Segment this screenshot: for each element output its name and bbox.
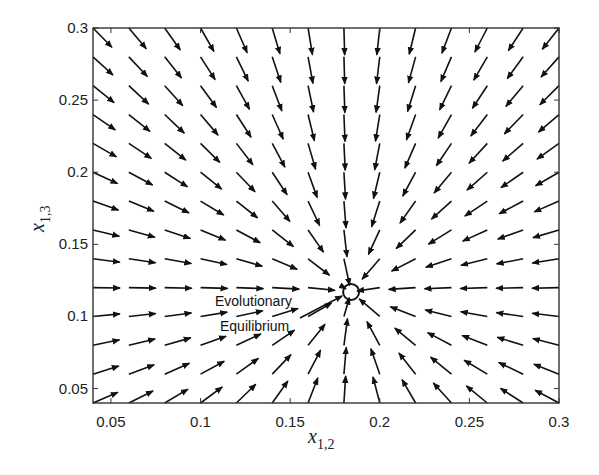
field-arrow [344, 172, 346, 199]
field-arrow [165, 338, 191, 345]
field-arrow [236, 172, 255, 191]
field-arrow [474, 57, 488, 80]
field-arrow [403, 172, 416, 196]
field-arrow [462, 335, 487, 345]
field-arrow [472, 86, 487, 109]
field-arrow [129, 115, 150, 132]
field-arrow [461, 312, 488, 317]
field-arrow [367, 322, 380, 346]
field-arrow [93, 392, 118, 403]
field-arrow [93, 201, 118, 210]
field-arrow [408, 86, 416, 112]
field-arrow [344, 319, 348, 346]
field-arrow [375, 115, 379, 142]
x-tick-labels: 0.050.10.150.20.250.3 [96, 413, 569, 430]
field-arrow [431, 357, 452, 374]
field-arrow [308, 259, 329, 275]
field-arrow [405, 143, 416, 168]
field-arrow [308, 350, 321, 374]
field-arrow [426, 259, 452, 267]
field-arrow [308, 378, 318, 403]
field-arrow [129, 259, 156, 263]
field-arrow [272, 288, 299, 289]
field-arrow [129, 288, 156, 289]
field-arrow [201, 143, 220, 162]
vector-field-chart: 0.050.10.150.20.250.3 0.050.10.150.20.25… [0, 0, 599, 475]
field-arrow [93, 340, 119, 345]
field-arrow [236, 28, 247, 53]
field-arrow [372, 201, 380, 227]
field-arrow [165, 259, 192, 264]
field-arrow [272, 172, 287, 195]
field-arrow [201, 259, 227, 265]
field-arrow [93, 259, 120, 262]
y-tick-labels: 0.050.10.150.20.250.3 [59, 19, 88, 397]
field-arrow [165, 389, 188, 403]
field-arrow [497, 259, 524, 264]
field-arrow [542, 28, 559, 49]
field-arrow [236, 384, 255, 403]
field-arrow [395, 328, 416, 345]
field-arrow [461, 259, 487, 265]
field-arrow [165, 86, 183, 106]
field-arrow [236, 288, 263, 289]
field-arrow [428, 333, 452, 346]
field-arrow [129, 143, 151, 158]
field-arrow [165, 57, 182, 78]
field-arrow [165, 172, 188, 187]
field-arrow [344, 347, 346, 374]
field-arrow [508, 28, 523, 51]
annotation-line1: Evolutionary [215, 293, 292, 309]
x-tick-label: 0.3 [549, 413, 570, 430]
vector-field-arrows [93, 28, 559, 403]
y-tick-label: 0.3 [67, 19, 88, 36]
field-arrow [344, 230, 347, 257]
field-arrow [165, 115, 185, 134]
field-arrow [272, 28, 280, 54]
field-arrow [272, 355, 291, 374]
annotation-pointer [300, 296, 342, 318]
field-arrow [236, 311, 262, 317]
x-tick-label: 0.25 [455, 413, 484, 430]
field-arrow [399, 353, 416, 374]
field-arrow [344, 376, 346, 403]
field-arrow [129, 172, 153, 185]
plot-frame [93, 28, 559, 403]
field-arrow [357, 288, 380, 291]
annotation-line2: Equilibrium [220, 318, 289, 334]
field-arrow [506, 86, 523, 107]
field-arrow [129, 365, 154, 374]
field-arrow [236, 230, 260, 243]
field-arrow [460, 288, 487, 289]
field-arrow [93, 366, 119, 374]
field-arrow [129, 339, 155, 345]
field-arrow [471, 115, 487, 136]
field-arrow [201, 172, 222, 189]
field-arrow [165, 28, 181, 50]
field-arrow [344, 259, 350, 285]
field-arrow [272, 143, 285, 167]
field-arrow [465, 201, 487, 216]
field-arrow [496, 288, 523, 289]
field-arrow [201, 230, 226, 240]
field-arrow [344, 201, 346, 228]
field-arrow [344, 115, 345, 142]
y-tick-label: 0.25 [59, 91, 88, 108]
field-arrow [440, 86, 452, 110]
field-arrow [129, 314, 156, 317]
y-tick-label: 0.2 [67, 163, 88, 180]
equilibrium-marker [343, 284, 359, 300]
field-arrow [497, 337, 523, 345]
field-arrow [371, 349, 380, 374]
x-tick-label: 0.1 [190, 413, 211, 430]
field-arrow [308, 230, 323, 252]
field-arrow [308, 143, 316, 169]
field-arrow [201, 201, 224, 215]
field-arrow [236, 201, 257, 218]
x-tick-label: 0.05 [96, 413, 125, 430]
field-arrow [533, 230, 559, 238]
field-arrow [431, 201, 451, 219]
field-arrow [165, 230, 191, 239]
field-arrow [396, 230, 415, 249]
field-arrow [436, 143, 451, 165]
